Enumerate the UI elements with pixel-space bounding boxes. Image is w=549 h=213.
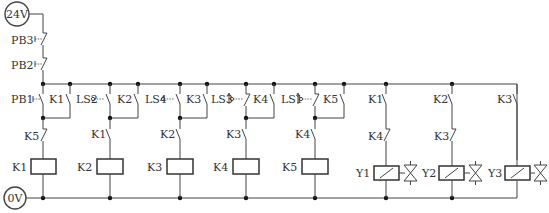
rung-k4: LS3 K4 K3 K4 [211,84,274,198]
pb1-label: PB1 [11,93,33,106]
pb3-contact: PB3 [11,33,47,58]
r4-interlock-label: K3 [226,128,241,141]
rung-k2: LS2 K2 K1 K2 [76,84,138,198]
valve-y1-icon [404,165,417,181]
r2-interlock-label: K1 [91,128,106,141]
r5-coil-label: K5 [282,161,297,174]
r2-start-label: LS2 [76,93,98,106]
pb2-label: PB2 [11,59,33,72]
coil-k2 [97,159,123,174]
ladder-diagram: 24V PB3 PB2 0V [0,0,549,213]
rung-y2: K2 K3 Y2 [421,84,482,198]
r1-hold-label: K1 [49,93,64,106]
r1-interlock-label: K5 [24,130,39,143]
r2-hold-label: K2 [117,93,132,106]
rung-k3: LS4 K3 K2 K3 [145,84,207,198]
r5-hold-label: K5 [323,93,338,106]
y3-contact1-label: K3 [497,93,512,106]
rung-k5: LS1 K5 K4 K5 [281,84,344,198]
r3-coil-label: K3 [147,161,162,174]
r4-hold-label: K4 [253,93,268,106]
valve-y3-icon [534,165,547,181]
r5-start-label: LS1 [281,93,303,106]
coil-k4 [233,159,259,174]
valve-y2-icon [469,165,482,181]
supply-24v: 24V [5,2,43,33]
pb2-contact: PB2 [11,58,47,84]
rung-y1: K1 K4 Y1 [355,84,417,198]
y1-contact1-label: K1 [368,93,383,106]
coil-k1 [31,159,56,174]
r4-start-label: LS3 [211,93,233,106]
y3-coil-label: Y3 [487,167,502,180]
y2-coil-label: Y2 [421,167,436,180]
r2-coil-label: K2 [77,161,92,174]
r5-interlock-label: K4 [295,128,310,141]
y2-contact2-label: K3 [434,130,449,143]
y2-contact1-label: K2 [433,93,448,106]
rung-k1: PB1 K1 K5 K1 [11,84,70,198]
pb3-label: PB3 [11,34,33,47]
supply-0v: 0V [4,187,26,209]
r4-coil-label: K4 [213,161,228,174]
bottom-rail [26,181,517,198]
coil-k5 [302,159,328,174]
y1-contact2-label: K4 [368,130,383,143]
r3-interlock-label: K2 [160,128,175,141]
r3-start-label: LS4 [145,93,167,106]
supply-0v-label: 0V [8,192,24,205]
supply-24v-label: 24V [6,8,29,21]
r3-hold-label: K3 [186,93,201,106]
y1-coil-label: Y1 [355,167,370,180]
coil-k3 [167,159,193,174]
r1-coil-label: K1 [12,161,27,174]
